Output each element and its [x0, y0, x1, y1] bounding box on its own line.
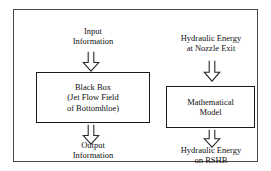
diagram-canvas: Input Information Black Box (Jet Flow Fi… [0, 0, 271, 171]
diagram-outer-frame: Input Information Black Box (Jet Flow Fi… [13, 9, 258, 162]
output-information-line-1: Output [48, 140, 138, 150]
hydraulic-energy-rshb-line-2: on RSHB [164, 155, 258, 165]
hydraulic-energy-rshb-label: Hydraulic Energy on RSHB [164, 145, 258, 165]
input-information-label: Input Information [48, 26, 138, 46]
hydraulic-energy-nozzle-line-2: at Nozzle Exit [164, 43, 258, 53]
input-arrow-down-icon [82, 51, 100, 72]
mathematical-model-node: Mathematical Model [166, 86, 255, 128]
input-information-line-2: Information [48, 36, 138, 46]
black-box-line-2: (Jet Flow Field [67, 92, 118, 102]
output-information-line-2: Information [48, 150, 138, 160]
input-information-line-1: Input [48, 26, 138, 36]
black-box-line-1: Black Box [75, 82, 111, 92]
hydraulic-energy-rshb-line-1: Hydraulic Energy [164, 145, 258, 155]
black-box-node: Black Box (Jet Flow Field of Bottomhloe) [36, 72, 150, 123]
mathematical-model-line-1: Mathematical [187, 97, 234, 107]
mathematical-model-line-2: Model [199, 107, 221, 117]
hydraulic-energy-nozzle-line-1: Hydraulic Energy [164, 33, 258, 43]
output-information-label: Output Information [48, 140, 138, 160]
hydraulic-input-arrow-down-icon [203, 60, 221, 82]
hydraulic-energy-nozzle-label: Hydraulic Energy at Nozzle Exit [164, 33, 258, 53]
black-box-line-3: of Bottomhloe) [67, 103, 119, 113]
